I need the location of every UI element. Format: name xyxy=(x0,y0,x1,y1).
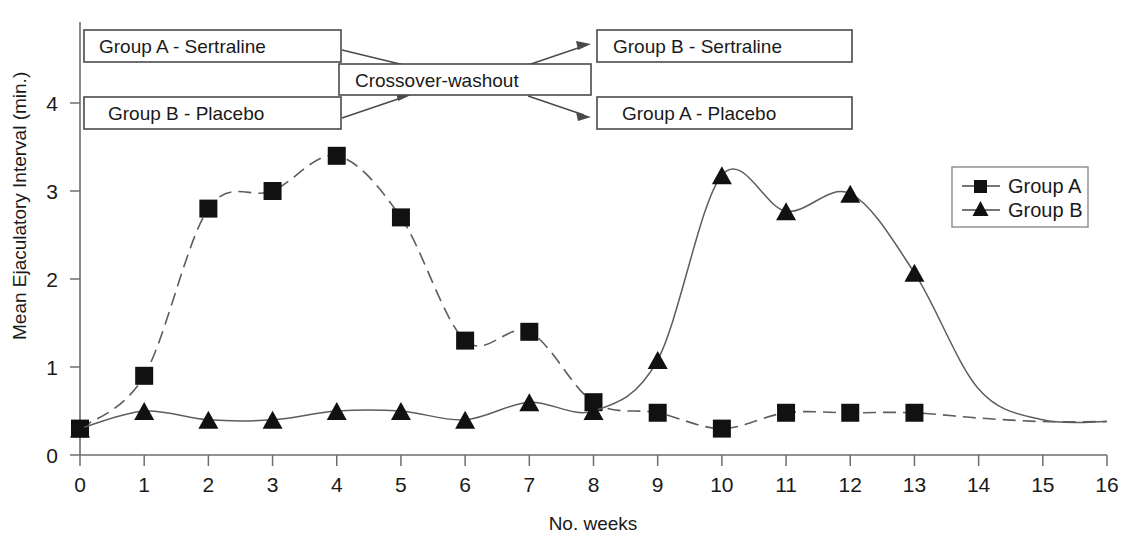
data-point-group-a-week-11 xyxy=(777,404,795,422)
data-point-group-a-week-6 xyxy=(456,332,474,350)
x-tick-label-13: 13 xyxy=(903,473,926,496)
x-axis-title: No. weeks xyxy=(549,513,638,534)
chart-figure: 4 3 2 1 0 012345678910111213141516 Mean … xyxy=(0,0,1136,553)
data-point-group-a-week-10 xyxy=(713,420,731,438)
x-tick-label-7: 7 xyxy=(523,473,535,496)
arrow-crossover-to-b-sertraline xyxy=(528,46,584,65)
x-tick-label-2: 2 xyxy=(203,473,215,496)
x-tick-label-8: 8 xyxy=(588,473,600,496)
y-axis-ticks: 4 3 2 1 0 xyxy=(46,92,80,467)
arrow-sertraline-to-crossover xyxy=(342,50,404,65)
arrow-crossover-to-a-placebo xyxy=(528,96,584,115)
data-point-group-a-week-1 xyxy=(135,367,153,385)
arrow-placebo-to-crossover xyxy=(342,97,404,118)
x-tick-label-14: 14 xyxy=(967,473,991,496)
x-tick-label-16: 16 xyxy=(1095,473,1118,496)
data-point-group-a-week-4 xyxy=(328,147,346,165)
data-point-group-b-week-13 xyxy=(904,264,924,282)
annotation-label-group-b-sertraline: Group B - Sertraline xyxy=(613,36,782,57)
annotation-group-b-placebo[interactable]: Group B - Placebo xyxy=(84,97,341,129)
legend-label-group-b: Group B xyxy=(1008,199,1082,221)
arrow-head-crossover-to-a-placebo xyxy=(576,112,591,121)
legend-label-group-a: Group A xyxy=(1008,175,1082,197)
x-tick-label-10: 10 xyxy=(710,473,733,496)
data-point-group-a-week-9 xyxy=(649,404,667,422)
legend-square-marker xyxy=(974,180,987,193)
data-point-group-a-week-12 xyxy=(841,404,859,422)
data-point-group-a-week-7 xyxy=(520,323,538,341)
data-point-group-b-week-10 xyxy=(712,166,732,184)
data-point-group-a-week-5 xyxy=(392,208,410,226)
y-tick-label-0: 0 xyxy=(46,444,58,467)
chart-axes xyxy=(80,22,1107,455)
x-tick-label-1: 1 xyxy=(138,473,150,496)
annotation-label-group-b-placebo: Group B - Placebo xyxy=(108,103,264,124)
annotation-group-a-sertraline[interactable]: Group A - Sertraline xyxy=(84,30,341,62)
data-point-group-b-week-9 xyxy=(648,351,668,369)
y-tick-label-3: 3 xyxy=(46,180,58,203)
annotation-group-a-placebo[interactable]: Group A - Placebo xyxy=(597,97,852,129)
arrow-head-crossover-to-b-sertraline xyxy=(576,41,591,50)
annotation-label-group-a-placebo: Group A - Placebo xyxy=(622,103,776,124)
data-point-group-a-week-13 xyxy=(905,404,923,422)
chart-legend[interactable]: Group A Group B xyxy=(952,167,1088,227)
x-tick-label-15: 15 xyxy=(1031,473,1054,496)
data-point-group-a-week-3 xyxy=(264,182,282,200)
data-point-group-b-week-12 xyxy=(840,185,860,203)
x-axis-ticks: 012345678910111213141516 xyxy=(74,455,1119,496)
x-tick-label-9: 9 xyxy=(652,473,664,496)
x-tick-label-5: 5 xyxy=(395,473,407,496)
y-tick-label-2: 2 xyxy=(46,268,58,291)
y-tick-label-1: 1 xyxy=(46,356,58,379)
y-axis-title: Mean Ejaculatory Interval (min.) xyxy=(9,72,30,340)
annotation-crossover-washout[interactable]: Crossover-washout xyxy=(339,64,591,95)
x-tick-label-12: 12 xyxy=(839,473,862,496)
x-tick-label-4: 4 xyxy=(331,473,343,496)
x-tick-label-11: 11 xyxy=(775,473,797,496)
annotation-label-crossover-washout: Crossover-washout xyxy=(355,70,519,91)
x-tick-label-0: 0 xyxy=(74,473,86,496)
y-tick-label-4: 4 xyxy=(46,92,58,115)
annotation-label-group-a-sertraline: Group A - Sertraline xyxy=(99,36,266,57)
data-point-group-a-week-2 xyxy=(199,200,217,218)
x-tick-label-6: 6 xyxy=(459,473,471,496)
annotation-group-b-sertraline[interactable]: Group B - Sertraline xyxy=(597,30,852,62)
x-tick-label-3: 3 xyxy=(267,473,279,496)
